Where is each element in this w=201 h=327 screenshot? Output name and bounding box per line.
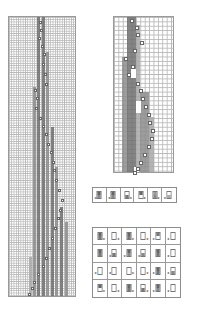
rule-tile: ▸ bbox=[137, 228, 152, 245]
arrow-right-icon: ▸ bbox=[132, 271, 134, 275]
head-marker bbox=[45, 257, 48, 260]
cell-glyph-icon bbox=[97, 232, 102, 240]
white-block bbox=[136, 101, 141, 113]
cell-glyph-icon bbox=[170, 249, 175, 257]
cell-glyph-icon bbox=[170, 267, 175, 275]
stripe-mid bbox=[55, 167, 58, 296]
rule-tile bbox=[93, 245, 108, 262]
arrow-right-icon: ▸ bbox=[103, 237, 105, 241]
rule-tile: ◂ bbox=[151, 263, 166, 280]
head-marker bbox=[42, 63, 45, 66]
arrow-left-icon: ◂ bbox=[167, 237, 169, 241]
rule-tile: ▸ bbox=[122, 228, 137, 245]
arrow-left-icon: ◂ bbox=[167, 271, 169, 275]
head-marker bbox=[147, 113, 151, 117]
head-marker bbox=[141, 97, 145, 101]
rule-tile: ◂ bbox=[151, 280, 166, 297]
head-marker bbox=[61, 199, 64, 202]
rule-tile: ▸ bbox=[122, 263, 137, 280]
arrow-left-icon: ◂ bbox=[138, 254, 140, 258]
rule-tile: ◂ bbox=[107, 188, 121, 202]
right-evolution-grid bbox=[113, 16, 174, 173]
cell-glyph-icon bbox=[170, 232, 175, 240]
head-marker bbox=[28, 293, 31, 296]
head-marker bbox=[151, 129, 155, 133]
head-marker bbox=[136, 82, 140, 86]
cell-glyph-icon bbox=[141, 249, 146, 257]
cell-glyph-icon bbox=[112, 284, 117, 292]
arrow-left-icon: ◂ bbox=[167, 289, 169, 293]
stripe-mid bbox=[140, 92, 149, 172]
head-marker bbox=[135, 26, 139, 30]
head-marker bbox=[57, 217, 60, 220]
cell-glyph-icon bbox=[125, 191, 130, 199]
rule-tile: ▸ bbox=[122, 280, 137, 297]
cell-glyph-icon bbox=[141, 267, 146, 275]
head-marker bbox=[51, 237, 54, 240]
cell-glyph-icon bbox=[111, 191, 116, 199]
head-marker bbox=[43, 53, 46, 56]
stripe-dark bbox=[37, 17, 40, 296]
head-marker bbox=[35, 107, 38, 110]
rule-tile: ▸ bbox=[137, 280, 152, 297]
arrow-left-icon: ◂ bbox=[109, 271, 111, 275]
head-marker bbox=[45, 133, 48, 136]
cell-glyph-icon bbox=[126, 249, 131, 257]
head-marker bbox=[41, 45, 44, 48]
rule-tile: ▸ bbox=[108, 228, 123, 245]
head-marker bbox=[53, 169, 56, 172]
rule-tile: ◂ bbox=[166, 228, 181, 245]
head-marker bbox=[58, 189, 61, 192]
head-marker bbox=[139, 161, 143, 165]
head-marker bbox=[127, 73, 131, 77]
head-marker bbox=[133, 49, 137, 53]
head-marker bbox=[140, 41, 144, 45]
rule-tile: ◂ bbox=[166, 245, 181, 262]
head-marker bbox=[39, 117, 42, 120]
stripe-mid bbox=[33, 87, 36, 296]
head-marker bbox=[54, 227, 57, 230]
cell-glyph-icon bbox=[138, 191, 143, 199]
arrow-right-icon: ▸ bbox=[158, 196, 160, 200]
arrow-left-icon: ◂ bbox=[152, 271, 154, 275]
arrow-right-icon: ▸ bbox=[132, 289, 134, 293]
head-marker bbox=[148, 121, 152, 125]
rule-tile: ◂ bbox=[122, 245, 137, 262]
head-marker bbox=[45, 83, 48, 86]
head-marker bbox=[139, 89, 143, 93]
rule-tile: ▸ bbox=[121, 188, 135, 202]
head-marker bbox=[131, 65, 135, 69]
cell-glyph-icon bbox=[155, 267, 160, 275]
rule-tile: ▸ bbox=[93, 228, 108, 245]
head-marker bbox=[39, 21, 42, 24]
rule-tile: ◂ bbox=[93, 263, 108, 280]
cell-glyph-icon bbox=[170, 284, 175, 292]
cell-glyph-icon bbox=[97, 284, 102, 292]
head-marker bbox=[144, 105, 148, 109]
rule-tile: ◂ bbox=[137, 245, 152, 262]
cell-glyph-icon bbox=[97, 249, 102, 257]
cell-glyph-icon bbox=[141, 232, 146, 240]
head-marker bbox=[147, 145, 151, 149]
rule-tile: ◂ bbox=[93, 188, 107, 202]
arrow-right-icon: ▸ bbox=[118, 289, 120, 293]
cell-glyph-icon bbox=[112, 267, 117, 275]
rule-tile: ▸ bbox=[93, 280, 108, 297]
stripe-dark bbox=[60, 207, 63, 296]
cell-glyph-icon bbox=[97, 267, 102, 275]
arrow-left-icon: ◂ bbox=[152, 237, 154, 241]
cell-glyph-icon bbox=[112, 232, 117, 240]
rule-tile: ▸ bbox=[134, 188, 148, 202]
head-marker bbox=[143, 153, 147, 157]
rule-row-panel: ◂◂▸▸▸◂ bbox=[92, 187, 177, 203]
rule-tile: ◂ bbox=[162, 188, 176, 202]
left-evolution-grid bbox=[8, 16, 76, 297]
rule-tile: ◂ bbox=[166, 263, 181, 280]
head-marker bbox=[136, 33, 140, 37]
rule-tile: ◂ bbox=[108, 245, 123, 262]
head-marker bbox=[42, 125, 45, 128]
head-marker bbox=[59, 209, 62, 212]
head-marker bbox=[37, 273, 40, 276]
rule-tile: ▸ bbox=[108, 280, 123, 297]
head-marker bbox=[124, 57, 128, 61]
